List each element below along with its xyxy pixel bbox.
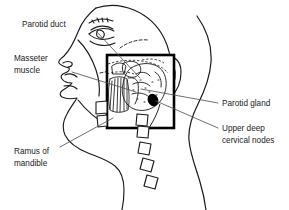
upper-lip-path bbox=[65, 74, 77, 77]
mandible-dashed-path bbox=[120, 40, 148, 48]
cervical-vertebrae-group bbox=[137, 126, 158, 189]
neck-outline-group bbox=[189, 16, 211, 210]
anatomy-figure: Parotid duct Masseter muscle Ramus of ma… bbox=[0, 0, 289, 210]
label-upper-deep-cervical-nodes: Upper deep cervical nodes bbox=[222, 124, 274, 145]
vertebra-3 bbox=[140, 158, 154, 172]
ramus-block-upper bbox=[96, 101, 107, 114]
lower-eyelid-fold-path bbox=[90, 41, 115, 45]
label-parotid-duct: Parotid duct bbox=[22, 20, 66, 29]
anatomy-illustration: Parotid duct Masseter muscle Ramus of ma… bbox=[0, 0, 289, 210]
ramus-block-lower bbox=[97, 115, 107, 127]
iris-path bbox=[97, 30, 105, 38]
posterior-neck-path bbox=[189, 16, 211, 210]
eye-group bbox=[89, 18, 115, 45]
label-parotid-gland: Parotid gland bbox=[222, 99, 271, 108]
label-ramus-of-mandible: Ramus of mandible bbox=[14, 147, 51, 168]
vertebra-1 bbox=[137, 126, 149, 138]
inset-detail-group bbox=[107, 55, 174, 128]
cheek-contour-path bbox=[78, 40, 99, 96]
leader-ramus-of-mandible bbox=[60, 118, 113, 147]
ramus-callout-shape-group bbox=[96, 101, 107, 127]
vertebra-2 bbox=[138, 142, 151, 155]
label-masseter-muscle: Masseter muscle bbox=[14, 54, 50, 75]
vertebra-4 bbox=[144, 175, 158, 189]
inset-vertebra-path bbox=[136, 114, 148, 126]
